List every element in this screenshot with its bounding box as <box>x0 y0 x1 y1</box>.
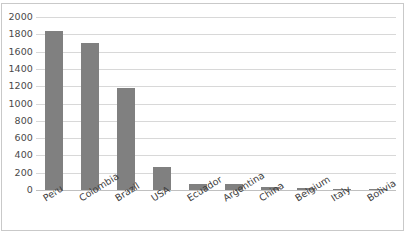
x-axis-tick-mark <box>198 190 199 193</box>
y-axis-tick-label: 600 <box>0 133 33 143</box>
y-axis-tick-label: 1800 <box>0 29 33 39</box>
x-axis-tick-mark <box>90 190 91 193</box>
bar <box>45 31 63 190</box>
y-axis-tick-label: 1400 <box>0 64 33 74</box>
x-axis-tick-mark <box>342 190 343 193</box>
x-axis-tick-mark <box>126 190 127 193</box>
x-axis-tick-mark <box>234 190 235 193</box>
plot-area <box>36 17 396 190</box>
x-axis-tick-mark <box>270 190 271 193</box>
y-axis-tick-label: 2000 <box>0 12 33 22</box>
y-axis-tick-label: 1000 <box>0 99 33 109</box>
y-axis-tick-label: 400 <box>0 150 33 160</box>
y-axis-tick-label: 0 <box>0 185 33 195</box>
y-axis-tick-label: 1200 <box>0 81 33 91</box>
x-axis-tick-mark <box>378 190 379 193</box>
x-axis-tick-mark <box>162 190 163 193</box>
y-axis-tick-label: 200 <box>0 168 33 178</box>
bar <box>117 88 135 190</box>
y-axis-tick-labels: 2000180016001400120010008006004002000 <box>0 0 33 235</box>
bar <box>81 43 99 190</box>
bar-chart: 2000180016001400120010008006004002000 Pe… <box>0 0 407 235</box>
bar-series <box>36 17 396 190</box>
y-axis-tick-label: 1600 <box>0 47 33 57</box>
x-axis-tick-mark <box>306 190 307 193</box>
x-axis-tick-mark <box>54 190 55 193</box>
x-axis-tick-labels: PeruColombiaBrazilUSAEcuadorArgentinaChi… <box>36 190 396 235</box>
y-axis-tick-label: 800 <box>0 116 33 126</box>
